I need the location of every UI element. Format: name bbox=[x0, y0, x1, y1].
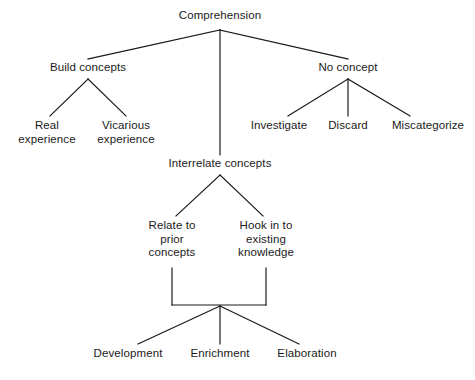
node-enrichment: Enrichment bbox=[190, 347, 249, 361]
node-real-experience: Real experience bbox=[18, 119, 75, 146]
node-development: Development bbox=[94, 347, 163, 361]
node-comprehension: Comprehension bbox=[179, 9, 262, 23]
edge-merge-to-elaboration bbox=[220, 306, 299, 344]
node-interrelate-concepts: Interrelate concepts bbox=[168, 157, 271, 171]
edge-comprehension-to-no-concept bbox=[220, 30, 348, 59]
node-build-concepts: Build concepts bbox=[50, 61, 126, 75]
edge-no-concept-to-miscategorize bbox=[348, 79, 410, 116]
edge-merge-to-development bbox=[138, 306, 220, 344]
node-hook-in-to-existing: Hook in to existing knowledge bbox=[238, 219, 294, 260]
node-discard: Discard bbox=[328, 119, 368, 133]
node-miscategorize: Miscategorize bbox=[392, 119, 464, 133]
node-elaboration: Elaboration bbox=[277, 347, 336, 361]
diagram-edge-layer bbox=[0, 0, 475, 380]
node-vicarious-experience: Vicarious experience bbox=[97, 119, 154, 146]
edge-interrelate-to-hook-in-to-existing bbox=[220, 175, 263, 216]
node-investigate: Investigate bbox=[251, 119, 308, 133]
edge-interrelate-to-relate-to-prior bbox=[176, 175, 220, 216]
comprehension-tree-diagram: ComprehensionBuild conceptsInterrelate c… bbox=[0, 0, 475, 380]
edge-build-concepts-to-vicarious-experience bbox=[88, 79, 126, 116]
node-relate-to-prior: Relate to prior concepts bbox=[149, 219, 196, 260]
node-no-concept: No concept bbox=[318, 61, 377, 75]
edge-comprehension-to-build-concepts bbox=[88, 30, 220, 59]
edge-build-concepts-to-real-experience bbox=[50, 79, 88, 116]
edge-no-concept-to-investigate bbox=[288, 79, 348, 116]
